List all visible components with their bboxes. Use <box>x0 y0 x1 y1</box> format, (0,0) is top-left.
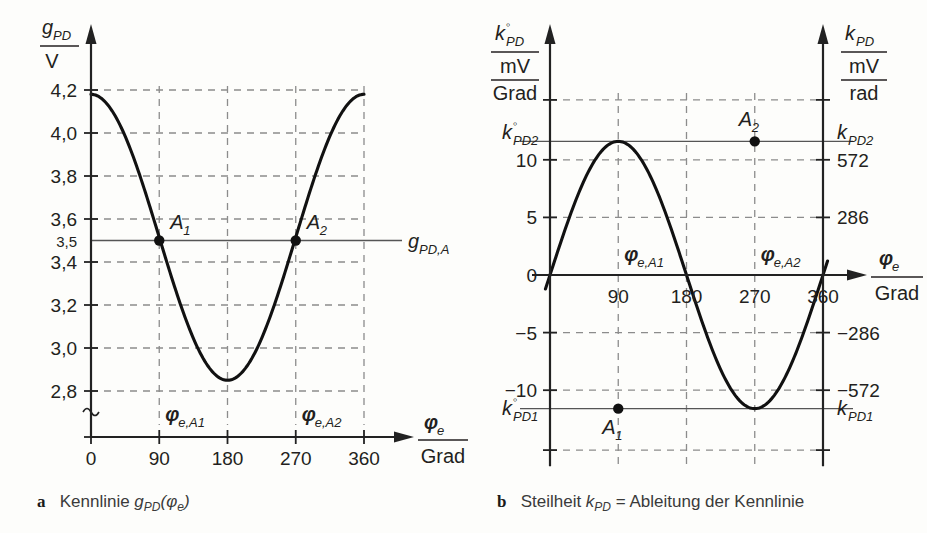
y-tick-label: 10 <box>516 150 537 171</box>
svg-text:◦: ◦ <box>513 392 518 407</box>
y-tick-label-right: 286 <box>837 207 869 228</box>
x-axis-label: φeGrad <box>418 411 468 467</box>
marker-label: A1 <box>601 416 622 443</box>
y-tick-label: 3,4 <box>51 252 78 273</box>
svg-text:rad: rad <box>850 82 879 104</box>
marker-point <box>154 235 164 245</box>
svg-text:1: 1 <box>183 223 190 238</box>
reference-line-label: gPD,A <box>408 230 449 257</box>
y-tick-label: 3,0 <box>51 338 77 359</box>
svg-text:e,A2: e,A2 <box>315 415 343 430</box>
svg-text:φ: φ <box>761 243 775 265</box>
svg-text:1: 1 <box>615 428 622 443</box>
svg-text:mV: mV <box>849 55 880 77</box>
svg-text:PD: PD <box>856 34 874 49</box>
axes <box>532 24 867 466</box>
svg-text:k: k <box>837 397 848 419</box>
svg-text:k: k <box>837 121 848 143</box>
chart-kennlinie: 4,24,03,83,63,43,23,02,83,5090180270360A… <box>0 0 470 480</box>
svg-text:e,A1: e,A1 <box>178 415 205 430</box>
x-tick-label: 90 <box>149 448 170 469</box>
marker-label: A2 <box>738 108 760 135</box>
y-tick-label: 0 <box>526 265 537 286</box>
svg-text:φ: φ <box>624 243 638 265</box>
y-tick-label: −5 <box>515 323 537 344</box>
svg-text:k: k <box>502 121 513 143</box>
svg-text:PD2: PD2 <box>848 133 874 148</box>
gridlines <box>91 86 364 425</box>
y-axis-arrow <box>86 24 97 44</box>
x-tick-label: 180 <box>212 448 244 469</box>
y-tick-label: 3,6 <box>51 209 77 230</box>
vline-annotations: φe,A1φe,A2 <box>624 243 801 270</box>
vline-annotations: φe,A1φe,A2 <box>165 403 342 430</box>
reference-line-labels: k◦PD2kPD2k◦PD1kPD1 <box>502 116 874 423</box>
marker-label: A1 <box>169 211 190 238</box>
y-tick-label: 4,2 <box>51 80 77 101</box>
y-axis-right-label: kPDmVrad <box>841 22 887 104</box>
marker-label: A2 <box>306 211 328 238</box>
y-tick-label: 5 <box>526 207 537 228</box>
svg-text:2: 2 <box>751 120 760 135</box>
x-axis-arrow <box>394 432 414 443</box>
svg-text:k: k <box>845 22 856 44</box>
y-tick-label: 2,8 <box>51 381 77 402</box>
marker-point <box>613 403 623 413</box>
y-tick-label: 4,0 <box>51 123 77 144</box>
vline-annotation: φe,A1 <box>165 403 205 430</box>
svg-text:A: A <box>601 416 615 438</box>
svg-text:PD1: PD1 <box>848 409 873 424</box>
caption-panel-a: a Kennlinie gPD(φe) <box>37 492 190 514</box>
figure-container: 4,24,03,83,63,43,23,02,83,5090180270360A… <box>0 0 927 533</box>
svg-text:e,A1: e,A1 <box>637 255 664 270</box>
svg-text:mV: mV <box>500 55 531 77</box>
svg-text:V: V <box>45 50 59 72</box>
y-tick-label-right: −286 <box>837 323 880 344</box>
svg-text:e: e <box>437 423 444 438</box>
caption-b-text: Steilheit kPD = Ableitung der Kennlinie <box>511 492 804 511</box>
svg-text:Grad: Grad <box>421 445 465 467</box>
x-axis-arrow <box>847 270 867 281</box>
caption-panel-b: b Steilheit kPD = Ableitung der Kennlini… <box>497 492 804 514</box>
svg-text:PD: PD <box>506 34 524 49</box>
y-axis-arrow <box>545 24 556 44</box>
vline-annotation: φe,A1 <box>624 243 664 270</box>
vline-annotation: φe,A2 <box>761 243 802 270</box>
svg-text:φ: φ <box>879 247 893 269</box>
svg-text:Grad: Grad <box>493 82 537 104</box>
svg-text:PD,A: PD,A <box>419 242 449 257</box>
x-tick-label: 360 <box>348 448 380 469</box>
svg-text:g: g <box>408 230 419 252</box>
svg-text:PD1: PD1 <box>513 409 538 424</box>
svg-text:g: g <box>42 16 53 38</box>
marker-point <box>750 136 760 146</box>
x-tick-label: 270 <box>739 286 771 307</box>
svg-text:Grad: Grad <box>875 282 919 304</box>
svg-text:PD2: PD2 <box>513 133 539 148</box>
svg-text:k: k <box>502 397 513 419</box>
y-axis-label: gPDV <box>40 16 79 72</box>
y-axis-right-arrow <box>818 24 829 44</box>
svg-text:2: 2 <box>319 223 328 238</box>
svg-text:◦: ◦ <box>513 116 518 131</box>
caption-a-text: Kennlinie gPD(φe) <box>50 492 189 511</box>
x-tick-label: 0 <box>86 448 97 469</box>
x-axis-ticks: 090180270360 <box>86 430 380 469</box>
svg-text:◦: ◦ <box>506 17 511 32</box>
svg-text:φ: φ <box>165 403 179 425</box>
vline-annotation: φe,A2 <box>302 403 343 430</box>
y-tick-label-right: 572 <box>837 150 869 171</box>
y-tick-label: 3,2 <box>51 295 77 316</box>
svg-text:A: A <box>306 211 320 233</box>
y-tick-label: 3,8 <box>51 166 77 187</box>
caption-letter-a: a <box>37 492 46 511</box>
svg-text:A: A <box>169 211 183 233</box>
x-axis-label: φeGrad <box>871 247 923 304</box>
y-tick-label-extra: 3,5 <box>56 233 77 250</box>
svg-text:k: k <box>495 22 506 44</box>
svg-text:PD: PD <box>53 28 71 43</box>
svg-text:φ: φ <box>302 403 316 425</box>
chart-steilheit: 1050−5−10572286−286−57290180270360A1A2φe… <box>467 0 927 480</box>
caption-letter-b: b <box>497 492 506 511</box>
x-axis-ticks: 90180270360 <box>608 286 839 307</box>
